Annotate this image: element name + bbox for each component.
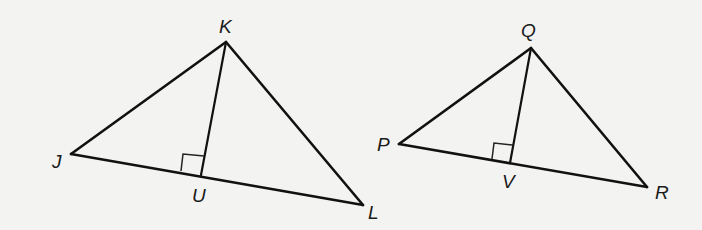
triangle-pqr: Q P R V <box>377 20 669 203</box>
segment-pr <box>399 144 647 187</box>
right-angle-mark-u <box>181 154 204 171</box>
point-label-v: V <box>502 171 517 192</box>
point-label-u: U <box>192 185 206 206</box>
triangle-jkl: K J L U <box>51 16 379 223</box>
segment-kl <box>226 42 363 205</box>
segment-jk <box>71 42 226 154</box>
segment-qr <box>531 48 647 187</box>
segment-pq <box>399 48 531 144</box>
vertex-label-p: P <box>377 134 390 155</box>
altitude-ku <box>201 42 226 175</box>
segment-jl <box>71 154 363 205</box>
vertex-label-k: K <box>219 16 233 37</box>
vertex-label-q: Q <box>521 20 536 41</box>
vertex-label-r: R <box>655 182 669 203</box>
vertex-label-l: L <box>368 202 379 223</box>
altitude-qv <box>510 48 531 163</box>
vertex-label-j: J <box>51 151 62 172</box>
geometry-figure: K J L U Q P R V <box>0 0 702 230</box>
right-angle-mark-v <box>492 143 513 159</box>
